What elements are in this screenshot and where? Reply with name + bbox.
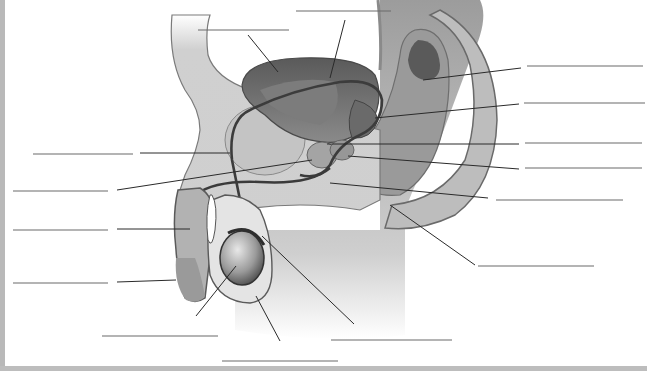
testis [220,229,264,285]
label-9[interactable] [496,186,623,200]
label-10[interactable] [13,216,108,230]
label-15[interactable] [222,347,338,361]
label-14[interactable] [331,326,452,340]
left-border [0,0,5,371]
diagram-canvas [0,0,647,371]
bottom-border [0,366,647,371]
label-1[interactable] [296,0,391,11]
label-8[interactable] [13,177,108,191]
label-4[interactable] [524,89,645,103]
label-3[interactable] [527,52,643,66]
label-12[interactable] [13,269,108,283]
label-6[interactable] [525,129,642,143]
label-2[interactable] [198,16,289,30]
label-5[interactable] [33,140,133,154]
label-13[interactable] [102,322,218,336]
leader-12 [117,280,176,282]
label-11[interactable] [478,252,594,266]
label-7[interactable] [525,154,642,168]
